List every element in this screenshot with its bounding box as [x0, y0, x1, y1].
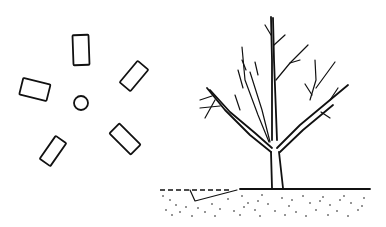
rect-top	[72, 35, 89, 66]
tree-diagram	[160, 17, 370, 217]
ground	[160, 189, 370, 217]
rect-left	[19, 78, 50, 101]
rect-lower-left	[40, 136, 67, 166]
tree-branches	[200, 17, 348, 152]
center-circle	[74, 96, 88, 110]
illustration	[0, 0, 386, 227]
top-view-diagram	[19, 35, 148, 166]
rect-lower-right	[109, 123, 140, 154]
rect-upper-right	[120, 61, 149, 91]
soil-stipple	[162, 194, 365, 217]
tree-trunk	[271, 152, 283, 188]
